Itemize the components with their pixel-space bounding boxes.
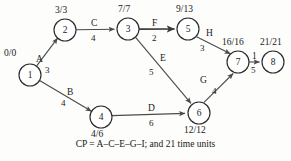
- node-6-number: 6: [192, 109, 206, 119]
- node-7-number: 7: [231, 58, 245, 68]
- node-2-times: 3/3: [55, 6, 67, 16]
- edge-B-label: B: [67, 88, 73, 98]
- node-8-times: 21/21: [260, 38, 282, 48]
- edge-H-label: H: [206, 29, 213, 39]
- edge-D-line: [112, 113, 185, 115]
- edge-B-duration: 4: [61, 99, 66, 108]
- edge-C-duration: 4: [91, 34, 96, 43]
- node-5-number: 5: [181, 25, 195, 35]
- edge-E-line: [136, 37, 191, 103]
- edge-G-duration: 4: [212, 87, 217, 96]
- node-1-times: 0/0: [4, 49, 16, 59]
- node-1-number: 1: [23, 71, 37, 81]
- edge-C-line: [76, 29, 114, 30]
- edge-E-duration: 5: [149, 68, 154, 77]
- node-5-times: 9/13: [176, 5, 193, 15]
- edge-E-label: E: [160, 54, 166, 64]
- edge-F-label: F: [152, 19, 157, 29]
- critical-path-caption: CP = A–C–E–G–I; and 21 time units: [0, 139, 291, 149]
- edge-H-duration: 3: [200, 44, 205, 53]
- node-3-number: 3: [121, 25, 135, 35]
- network-diagram-canvas: 1 2 3 4 5 6 7 8 0/0 3/3 7/7 4/6 9/13 12/…: [0, 0, 291, 161]
- edge-G-label: G: [200, 76, 207, 86]
- edge-A-duration: 3: [45, 66, 50, 75]
- edge-F-duration: 2: [152, 34, 157, 43]
- node-6-times: 12/12: [184, 126, 206, 136]
- edge-I-label: 1: [252, 52, 257, 62]
- node-3-times: 7/7: [118, 5, 130, 15]
- network-graph-svg: [0, 0, 291, 161]
- node-7-times: 16/16: [222, 38, 244, 48]
- node-2-number: 2: [58, 26, 72, 36]
- node-4-number: 4: [94, 113, 108, 123]
- edge-G-line: [204, 74, 233, 103]
- node-8-number: 8: [266, 58, 280, 68]
- edge-D-duration: 6: [149, 119, 154, 128]
- edge-C-label: C: [91, 19, 97, 29]
- edge-D-label: D: [148, 104, 155, 114]
- edge-A-label: A: [36, 55, 43, 65]
- edge-I-duration: 5: [251, 66, 256, 75]
